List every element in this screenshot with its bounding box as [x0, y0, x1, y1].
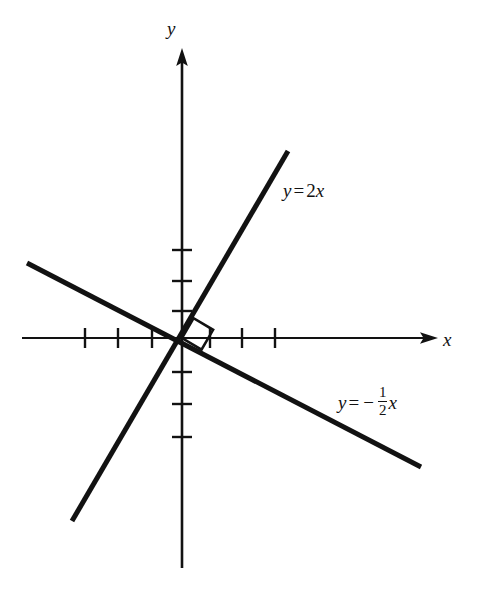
coordinate-plane-svg [0, 0, 480, 591]
coordinate-plane-figure: y x y=2x y=−12x [0, 0, 480, 591]
line2-variable: x [388, 392, 396, 413]
line1-equals: = [291, 180, 306, 201]
line2-equals: = [346, 392, 361, 413]
line2-minus-sign: − [361, 392, 376, 413]
x-axis-label: x [443, 330, 451, 349]
y-axis [176, 48, 188, 568]
line2-numerator: 1 [378, 385, 388, 401]
line-label-y-equals-neg-half-x: y=−12x [338, 385, 397, 419]
line-y-equals-neg-half-x [27, 263, 421, 467]
y-axis-label: y [167, 19, 175, 38]
line1-coefficient: 2 [306, 180, 316, 201]
line-y-equals-2x [72, 151, 288, 521]
line-label-y-equals-2x: y=2x [283, 181, 324, 200]
line2-fraction: 12 [378, 385, 388, 419]
line2-denominator: 2 [378, 401, 388, 418]
line1-variable: x [316, 180, 324, 201]
